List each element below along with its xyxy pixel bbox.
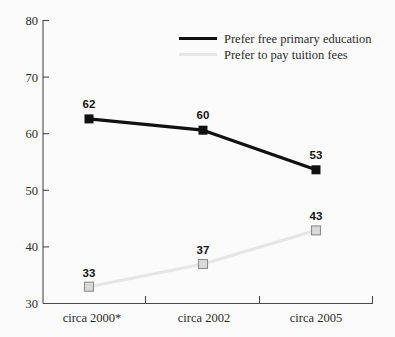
value-label-light-0: 33 [83, 267, 96, 279]
value-label-dark-2: 53 [310, 149, 323, 161]
x-tick-label-1: circa 2002 [178, 311, 230, 325]
series-dark-marker-1 [199, 126, 208, 135]
series-dark-marker-0 [85, 114, 94, 123]
y-tick-label-60: 60 [26, 127, 39, 141]
x-tick-label-2: circa 2005 [290, 311, 342, 325]
series-light-marker-0 [85, 282, 94, 291]
value-label-dark-1: 60 [197, 109, 210, 121]
legend-label-1: Prefer to pay tuition fees [224, 48, 348, 62]
y-tick-label-70: 70 [26, 71, 39, 85]
y-tick-label-80: 80 [26, 14, 39, 28]
y-tick-label-50: 50 [26, 184, 39, 198]
x-tick-label-0: circa 2000* [63, 311, 122, 325]
series-light-marker-2 [312, 226, 321, 235]
value-label-light-2: 43 [310, 210, 323, 222]
chart-container: 80 70 60 50 40 30 circa 2000* circa 2002… [0, 0, 395, 337]
value-label-dark-0: 62 [83, 98, 96, 110]
y-tick-label-40: 40 [26, 240, 39, 254]
x-axis-tick-labels: circa 2000* circa 2002 circa 2005 [63, 311, 343, 325]
series-light-marker-1 [199, 260, 208, 269]
line-chart: 80 70 60 50 40 30 circa 2000* circa 2002… [0, 0, 395, 337]
legend-label-0: Prefer free primary education [224, 32, 372, 46]
value-label-light-1: 37 [197, 244, 210, 256]
series-dark-marker-2 [312, 165, 321, 174]
y-tick-label-30: 30 [26, 297, 39, 311]
